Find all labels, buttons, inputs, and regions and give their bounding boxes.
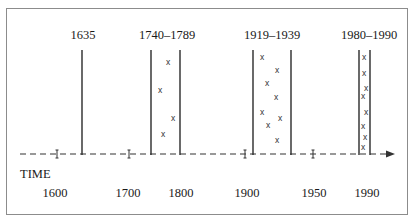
period-label: 1740–1789 [139, 28, 195, 42]
event-mark: x [274, 92, 279, 102]
event-mark: x [265, 78, 270, 88]
event-mark: x [361, 142, 366, 152]
timeline-diagram: xxxxxxxxxxxxxxxxxxxx 16351740–17891919–1… [0, 0, 415, 224]
event-mark: x [363, 132, 368, 142]
event-mark: x [362, 68, 367, 78]
right-arrow-icon [386, 151, 395, 158]
event-mark: x [266, 120, 271, 130]
event-mark: x [158, 85, 163, 95]
year-labels: 160017001800190019501990 [43, 186, 380, 200]
year-label: 1950 [302, 186, 327, 200]
year-label: 1800 [169, 186, 194, 200]
event-mark: x [260, 107, 265, 117]
period-label: 1635 [71, 28, 96, 42]
event-mark: x [275, 135, 280, 145]
event-mark: x [171, 113, 176, 123]
event-mark: x [362, 52, 367, 62]
period-lines [82, 50, 370, 155]
axis-name-label: TIME [20, 167, 51, 181]
year-label: 1600 [43, 186, 68, 200]
event-mark: x [278, 113, 283, 123]
event-mark: x [364, 107, 369, 117]
event-mark: x [260, 52, 265, 62]
period-label: 1980–1990 [341, 28, 397, 42]
event-mark: x [161, 129, 166, 139]
event-marks: xxxxxxxxxxxxxxxxxxxx [158, 52, 369, 152]
year-label: 1700 [116, 186, 141, 200]
event-mark: x [166, 57, 171, 67]
event-mark: x [275, 65, 280, 75]
year-label: 1990 [355, 186, 380, 200]
period-label: 1919–1939 [244, 28, 300, 42]
period-labels: 16351740–17891919–19391980–1990 [71, 28, 398, 42]
year-label: 1900 [235, 186, 260, 200]
event-mark: x [361, 121, 366, 131]
